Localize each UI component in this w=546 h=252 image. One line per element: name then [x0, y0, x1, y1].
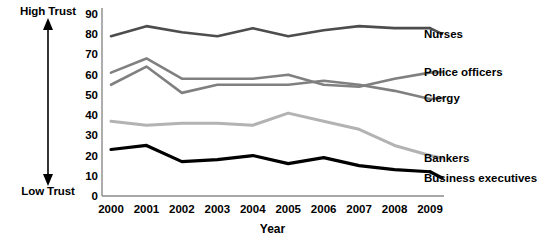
y-tick-label: 20 [85, 150, 98, 162]
x-tick-label: 2001 [126, 202, 166, 216]
y-tick-label: 30 [85, 129, 98, 141]
x-tick-label: 2004 [233, 202, 273, 216]
y-tick-label: 40 [85, 109, 98, 121]
axis-lines [102, 8, 444, 196]
x-tick-label: 2003 [197, 202, 237, 216]
x-axis-title: Year [101, 222, 444, 236]
y-tick-label: 90 [85, 8, 98, 20]
x-tick-label: 2007 [339, 202, 379, 216]
legend: NursesPolice officersClergyBankersBusine… [424, 0, 546, 205]
y-axis: 0102030405060708090 [74, 0, 98, 205]
chart-figure: High Trust Low Trust 0102030405060708090… [0, 0, 546, 252]
series-label: Clergy [424, 92, 460, 104]
x-tick-label: 2000 [91, 202, 131, 216]
y-tick-label: 0 [92, 190, 98, 202]
series-label: Bankers [424, 152, 469, 164]
x-tick-label: 2008 [375, 202, 415, 216]
series-line [111, 113, 430, 155]
y-tick-label: 10 [85, 170, 98, 182]
series-label: Nurses [424, 28, 463, 40]
series-line [111, 145, 430, 171]
x-axis: 2000200120022003200420052006200720082009 [101, 202, 444, 220]
y-tick-label: 80 [85, 28, 98, 40]
series-lines [101, 8, 444, 200]
y-tick-label: 50 [85, 89, 98, 101]
series-line [111, 26, 430, 36]
x-tick-label: 2005 [268, 202, 308, 216]
series-line [111, 58, 430, 86]
y-tick-label: 70 [85, 48, 98, 60]
series-label: Police officers [424, 66, 503, 78]
series-label: Business executives [424, 172, 537, 184]
plot-area [101, 8, 444, 200]
x-tick-label: 2002 [162, 202, 202, 216]
y-tick-label: 60 [85, 69, 98, 81]
x-tick-label: 2006 [304, 202, 344, 216]
